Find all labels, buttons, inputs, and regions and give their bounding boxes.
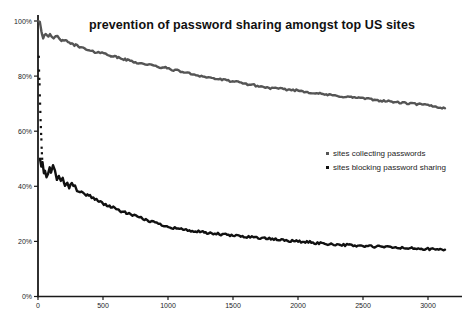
blocking-intro-point	[38, 56, 40, 58]
blocking-intro-point	[38, 78, 40, 80]
x-tick-label: 3000	[420, 302, 436, 309]
collecting-series-marker-icon	[326, 152, 329, 155]
x-tick-label: 1000	[160, 302, 176, 309]
x-tick-label: 0	[36, 302, 40, 309]
x-tick-label: 500	[97, 302, 109, 309]
legend-item-collecting: sites collecting passwords	[326, 146, 446, 160]
y-tick-label: 0%	[22, 293, 32, 300]
chart-legend: sites collecting passwords sites blockin…	[326, 146, 446, 174]
blocking-intro-point	[40, 133, 42, 135]
password-sharing-chart: 0%20%40%60%80%100%0500100015002000250030…	[0, 0, 469, 326]
y-tick-label: 60%	[18, 128, 32, 135]
blocking-intro-point	[40, 119, 42, 121]
blocking-intro-point	[40, 126, 42, 128]
blocking-intro-point	[40, 138, 42, 140]
blocking-intro-point	[39, 111, 41, 113]
legend-label-blocking: sites blocking password sharing	[333, 163, 446, 172]
blocking-series-marker-icon	[326, 166, 329, 169]
x-tick-label: 2000	[290, 302, 306, 309]
y-tick-label: 20%	[18, 238, 32, 245]
y-tick-label: 100%	[14, 18, 32, 25]
blocking-intro-point	[39, 103, 41, 105]
blocking-intro-point	[41, 152, 43, 154]
legend-label-collecting: sites collecting passwords	[333, 149, 425, 158]
y-tick-label: 40%	[18, 183, 32, 190]
x-tick-label: 1500	[225, 302, 241, 309]
y-tick-label: 80%	[18, 73, 32, 80]
blocking-intro-point	[38, 83, 40, 85]
x-tick-label: 2500	[355, 302, 371, 309]
collecting-series-line	[38, 21, 445, 109]
blocking-intro-point	[41, 147, 43, 149]
blocking-intro-point	[41, 158, 43, 160]
blocking-intro-point	[38, 69, 40, 71]
legend-item-blocking: sites blocking password sharing	[326, 160, 446, 174]
chart-title: prevention of password sharing amongst t…	[89, 18, 415, 32]
blocking-intro-point	[39, 94, 41, 96]
